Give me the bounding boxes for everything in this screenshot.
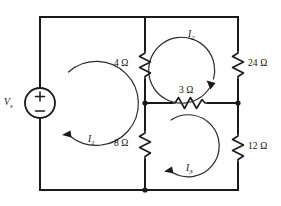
voltage-source-label-subscript: s [10,102,13,109]
resistor-4ohm-label: 4 Ω [114,59,129,69]
resistor-8ohm-symbol [140,130,151,160]
node-dot-bottom-middle [142,187,147,192]
mesh-loop-i3-arrowhead [164,167,174,174]
circuit-schematic-svg [0,0,281,206]
voltage-source-label: Vs [4,98,13,110]
mesh-current-i1-label: I1 [88,135,95,147]
mesh-loop-i2-arrowhead [207,81,216,90]
mesh-loop-i1-arrowhead [62,131,72,138]
mesh-loop-i3-arc [171,115,219,177]
mesh-current-i3-label: I3 [186,164,193,176]
resistor-12ohm-symbol [233,133,244,163]
resistor-24ohm-label: 24 Ω [248,59,267,69]
mesh-loop-i1-arc [69,61,139,145]
mesh-current-i1-subscript: 1 [91,139,95,146]
circuit-diagram: Vs 4 Ω 24 Ω 3 Ω 8 Ω 12 Ω I1 I2 I3 [0,0,281,206]
node-dot-middle-right [235,100,240,105]
resistor-8ohm-label: 8 Ω [114,139,129,149]
resistor-24ohm-symbol [233,50,244,80]
mesh-current-i2-label: I2 [188,30,195,42]
node-dot-middle-left [142,100,147,105]
resistor-3ohm-label: 3 Ω [179,86,194,96]
mesh-current-i2-subscript: 2 [191,34,195,41]
mesh-current-i3-subscript: 3 [189,168,193,175]
resistor-12ohm-label: 12 Ω [248,142,267,152]
